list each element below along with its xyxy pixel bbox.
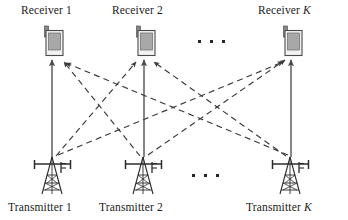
ellipsis-dot [222,40,225,43]
ellipsis-dot [216,174,219,177]
receiver-row-ellipsis [198,40,225,43]
transmitter-K-label-var: K [304,201,312,213]
interference-link-tx1-rx2 [56,62,136,156]
diagram-svg [0,0,348,220]
receiver-K-label: Receiver K [258,5,311,17]
receiver-icon-rxK [284,26,303,56]
transmitter-2-label: Transmitter 2 [99,202,163,214]
receiver-1-label: Receiver 1 [21,5,72,17]
transmitter-icon-txK [272,157,309,194]
transmitter-K-label-text: Transmitter [246,201,304,213]
receiver-K-label-text: Receiver [258,4,303,16]
ellipsis-dot [204,174,207,177]
ellipsis-dot [192,174,195,177]
receiver-icon-rx1 [45,26,64,56]
figure-canvas: Receiver 1 Receiver 2 Receiver K Transmi… [0,0,348,220]
interference-link-tx2-rx1 [64,62,140,156]
transmitter-K-label: Transmitter K [246,202,312,214]
transmitter-1-label: Transmitter 1 [8,202,72,214]
interference-link-tx1-rxK [58,62,283,155]
ellipsis-dot [210,40,213,43]
interference-link-txK-rx2 [154,62,286,156]
interference-link-txK-rx1 [66,63,288,155]
receiver-K-label-var: K [303,4,311,16]
transmitter-icon-tx1 [34,157,71,194]
receiver-2-label: Receiver 2 [112,5,163,17]
ellipsis-dot [198,40,201,43]
interference-links-group [56,60,288,156]
transmitter-row-ellipsis [192,174,219,177]
transmitter-icon-tx2 [125,157,162,194]
receiver-icon-rx2 [137,26,156,56]
